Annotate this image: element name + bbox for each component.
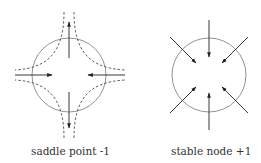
stable-node-label: stable node +1 bbox=[171, 145, 251, 157]
saddle-point-label: saddle point -1 bbox=[31, 145, 110, 157]
arrow-from-top-right bbox=[222, 37, 248, 63]
arrow-from-bottom-left bbox=[170, 87, 196, 113]
arrow-from-top-left bbox=[170, 37, 196, 63]
stable-arrows bbox=[170, 20, 248, 130]
saddle-point-diagram bbox=[15, 12, 125, 138]
stable-node-diagram bbox=[170, 20, 248, 130]
phase-portraits bbox=[0, 0, 261, 163]
arrow-from-bottom-right bbox=[222, 87, 248, 113]
